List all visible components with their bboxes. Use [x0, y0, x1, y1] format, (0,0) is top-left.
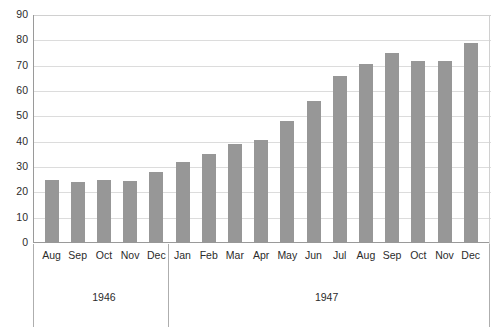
x-axis-month-labels: AugSepOctNovDecJanFebMarAprMayJunJulAugS…: [33, 248, 490, 270]
y-axis-tick-label: 10: [0, 212, 28, 223]
y-axis-tick-label: 50: [0, 110, 28, 121]
x-axis-month-label: Dec: [454, 248, 488, 262]
bar: [254, 140, 268, 243]
bars-layer: [33, 15, 490, 243]
y-axis-tick-label: 90: [0, 9, 28, 20]
group-separator-left: [33, 244, 34, 327]
bar: [359, 64, 373, 243]
y-axis-tick-label: 40: [0, 136, 28, 147]
x-axis-year-label: 1947: [297, 290, 357, 304]
y-axis-labels: 0102030405060708090: [0, 0, 28, 327]
y-axis-tick-label: 20: [0, 186, 28, 197]
group-separator-middle: [168, 244, 169, 327]
x-axis-year-labels: 19461947: [0, 290, 503, 312]
bar: [176, 162, 190, 243]
bar: [97, 180, 111, 243]
bar: [123, 181, 137, 243]
bar: [149, 172, 163, 243]
bar: [307, 101, 321, 243]
bar: [71, 182, 85, 243]
x-axis-year-label: 1946: [74, 290, 134, 304]
bar: [45, 180, 59, 243]
bar: [202, 154, 216, 243]
bar: [464, 43, 478, 243]
y-axis-tick-label: 80: [0, 34, 28, 45]
bar: [228, 144, 242, 243]
bar: [385, 53, 399, 243]
bar: [280, 121, 294, 243]
y-axis-tick-label: 70: [0, 60, 28, 71]
bar: [411, 61, 425, 243]
bar: [438, 61, 452, 243]
bar: [333, 76, 347, 243]
y-axis-tick-label: 30: [0, 161, 28, 172]
y-axis-tick-label: 0: [0, 237, 28, 248]
group-separator-right: [489, 244, 490, 327]
bar-chart: 0102030405060708090 AugSepOctNovDecJanFe…: [0, 0, 503, 327]
y-axis-tick-label: 60: [0, 85, 28, 96]
